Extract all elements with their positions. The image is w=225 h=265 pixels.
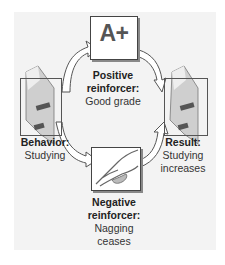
- behavior-frame: [20, 78, 62, 136]
- result-frame: [164, 78, 208, 136]
- negative-reinforcer-label: Negative reinforcer: Nagging ceases: [78, 196, 150, 248]
- result-label: Result: Studying increases: [148, 136, 218, 175]
- positive-reinforcer-label: Positive reinforcer: Good grade: [78, 69, 148, 108]
- pointing-hand-icon: [92, 148, 140, 190]
- behavior-label: Behavior: Studying: [14, 136, 76, 162]
- grade-a-plus: A+: [90, 20, 138, 47]
- negative-reinforcer-card: [91, 147, 141, 191]
